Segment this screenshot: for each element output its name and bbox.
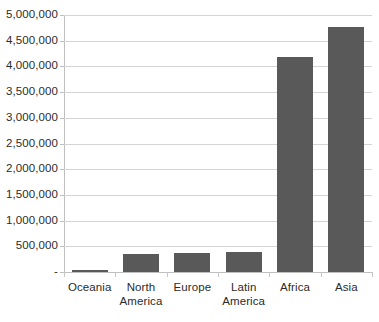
x-axis-label-line: Europe	[173, 281, 211, 293]
bar	[328, 27, 364, 272]
x-axis-label-line: Asia	[335, 281, 358, 293]
x-axis-category-label: LatinAmerica	[218, 280, 269, 308]
x-axis-tick-mark	[321, 272, 322, 277]
x-axis-tick-mark	[372, 272, 373, 277]
x-axis-category-label: Europe	[167, 280, 218, 294]
x-axis-category-label: NorthAmerica	[115, 280, 166, 308]
bar	[277, 57, 313, 272]
bar-chart: -500,0001,000,0001,500,0002,000,0002,500…	[0, 0, 379, 322]
gridline	[64, 195, 372, 196]
x-axis-tick-mark	[269, 272, 270, 277]
x-axis-label-line: Oceania	[68, 281, 112, 293]
y-axis-tick-label: 500,000	[0, 240, 58, 251]
x-axis-category-label: Oceania	[64, 280, 115, 294]
gridline	[64, 169, 372, 170]
y-axis-tick-label: 4,500,000	[0, 35, 58, 46]
gridline	[64, 221, 372, 222]
x-axis-label-line: Latin	[231, 281, 256, 293]
gridline	[64, 41, 372, 42]
x-axis-label-line: America	[218, 294, 269, 308]
gridline	[64, 144, 372, 145]
x-axis-category-labels: OceaniaNorthAmericaEuropeLatinAmericaAfr…	[64, 280, 372, 322]
x-axis-tick-mark	[218, 272, 219, 277]
x-axis-category-label: Asia	[321, 280, 372, 294]
y-axis-tick-label: 2,000,000	[0, 163, 58, 174]
gridline	[64, 66, 372, 67]
y-axis-tick-label: 3,500,000	[0, 86, 58, 97]
bar	[72, 270, 108, 272]
y-axis-tick-label: -	[0, 266, 58, 277]
gridline	[64, 92, 372, 93]
y-axis-tick-label: 1,000,000	[0, 215, 58, 226]
bar	[226, 252, 262, 272]
y-axis-tick-label: 3,000,000	[0, 112, 58, 123]
x-axis-tick-mark	[64, 272, 65, 277]
x-axis-tick-mark	[167, 272, 168, 277]
plot-area	[64, 15, 372, 272]
x-axis-tick-mark	[115, 272, 116, 277]
x-axis-label-line: America	[115, 294, 166, 308]
bar	[123, 254, 159, 272]
y-axis-tick-labels: -500,0001,000,0001,500,0002,000,0002,500…	[0, 0, 58, 322]
x-axis-label-line: Africa	[280, 281, 310, 293]
y-axis-tick-label: 1,500,000	[0, 189, 58, 200]
x-axis-label-line: North	[127, 281, 156, 293]
y-axis-tick-label: 4,000,000	[0, 60, 58, 71]
gridline	[64, 15, 372, 16]
y-axis-tick-label: 5,000,000	[0, 9, 58, 20]
gridline	[64, 118, 372, 119]
x-axis-category-label: Africa	[269, 280, 320, 294]
bar	[174, 253, 210, 272]
gridline	[64, 246, 372, 247]
y-axis-tick-label: 2,500,000	[0, 138, 58, 149]
